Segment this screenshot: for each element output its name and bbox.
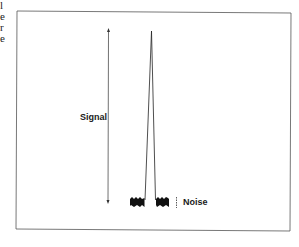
signal-label: Signal (80, 112, 107, 122)
noise-label: Noise (183, 197, 208, 207)
signal-to-noise-diagram (0, 0, 299, 247)
signal-peak (145, 31, 156, 200)
noise-trace (130, 197, 169, 207)
signal-arrow (107, 28, 111, 204)
